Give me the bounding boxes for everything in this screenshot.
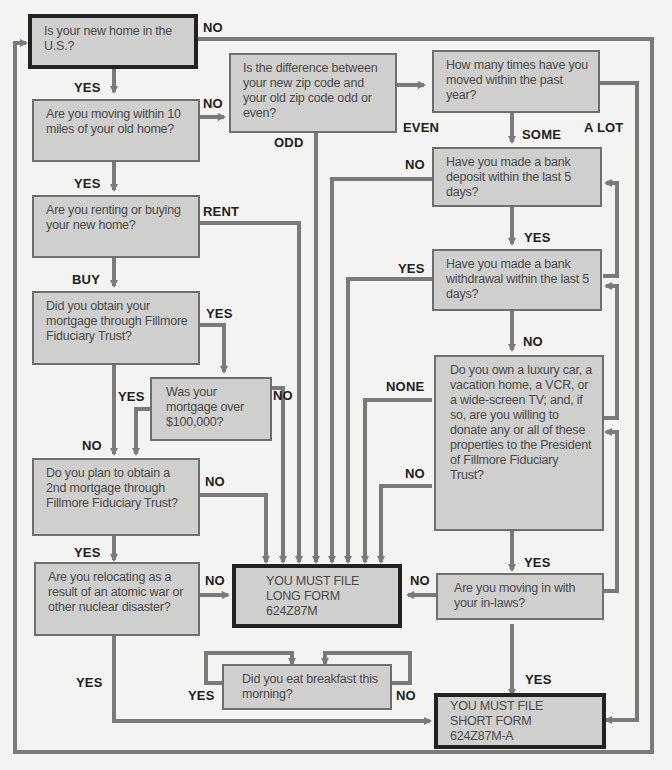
label-rent: RENT	[203, 204, 239, 219]
label-fft-no: NO	[82, 438, 102, 453]
wire-second-no	[200, 495, 266, 562]
label-100k-yes: YES	[118, 389, 145, 404]
label-luxury-no: NO	[405, 466, 425, 481]
label-atomic-yes: YES	[76, 675, 103, 690]
label-times-alot: A LOT	[584, 120, 624, 135]
question-10-miles: Are you moving within 10 miles of your o…	[32, 99, 200, 162]
label-second-yes: YES	[74, 545, 101, 560]
label-us-yes: YES	[74, 80, 101, 95]
wire-luxury-none	[365, 400, 432, 562]
question-in-laws: Are you moving in with your in-laws?	[436, 573, 604, 620]
label-deposit-yes: YES	[524, 230, 551, 245]
label-second-no: NO	[205, 474, 225, 489]
wire-100k-no	[272, 388, 283, 562]
label-inlaws-no: NO	[410, 573, 430, 588]
question-renting: Are you renting or buying your new home?	[32, 195, 200, 258]
long-form-result: YOU MUST FILE LONG FORM 624Z87M	[232, 564, 402, 628]
question-atomic-war: Are you relocating as a result of an ato…	[34, 562, 200, 636]
label-luxury-none: NONE	[386, 379, 424, 394]
label-miles-yes: YES	[74, 176, 101, 191]
label-withdrawal-yes: YES	[398, 261, 425, 276]
label-breakfast-no: NO	[396, 688, 416, 703]
label-deposit-no: NO	[405, 157, 425, 172]
label-miles-no: NO	[203, 96, 223, 111]
label-breakfast-yes: YES	[188, 688, 215, 703]
label-100k-no: NO	[273, 388, 293, 403]
wire-loop-withdrawal	[603, 286, 617, 418]
question-bank-deposit: Have you made a bank deposit within the …	[432, 147, 602, 207]
label-zip-even: EVEN	[403, 120, 439, 135]
question-times-moved: How many times have you moved within the…	[432, 50, 600, 113]
wire-withdrawal-yes	[348, 279, 432, 562]
label-us-no: NO	[203, 20, 223, 35]
question-breakfast: Did you eat breakfast this morning?	[222, 664, 392, 710]
wire-luxury-no	[381, 486, 432, 562]
wire-loop-luxury	[603, 432, 617, 591]
question-bank-withdrawal: Have you made a bank withdrawal within t…	[432, 249, 602, 311]
wire-100k-yes	[136, 409, 150, 454]
label-zip-odd: ODD	[274, 135, 304, 150]
question-2nd-mortgage: Do you plan to obtain a 2nd mortgage thr…	[32, 458, 200, 536]
label-inlaws-yes: YES	[525, 672, 552, 687]
label-withdrawal-no: NO	[523, 334, 543, 349]
wire-loop-deposit	[603, 183, 617, 276]
question-luxury: Do you own a luxury car, a vacation home…	[434, 355, 604, 531]
label-atomic-no: NO	[205, 573, 225, 588]
question-mortgage-100k: Was your mortgage over $100,000?	[150, 377, 272, 441]
wire-fft-yes	[200, 325, 224, 372]
label-luxury-yes: YES	[524, 555, 551, 570]
label-times-some: SOME	[522, 127, 561, 142]
question-zip: Is the difference between your new zip c…	[229, 53, 397, 133]
question-mortgage-fft: Did you obtain your mortgage through Fil…	[32, 291, 200, 365]
short-form-result: YOU MUST FILE SHORT FORM 624Z87M-A	[434, 693, 606, 749]
label-buy: BUY	[72, 272, 100, 287]
label-fft-yes: YES	[206, 306, 233, 321]
question-us: Is your new home in the U.S.?	[28, 14, 198, 69]
